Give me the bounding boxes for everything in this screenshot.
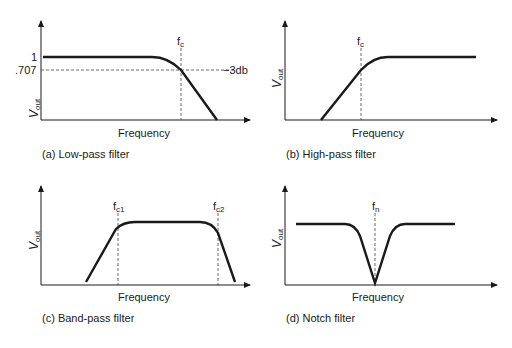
response-curve (321, 57, 476, 120)
panel-band-pass: fc1 fc2 Vout Frequency (c) Band-pass fil… (27, 186, 250, 324)
response-curve (296, 224, 455, 283)
tick-707: .707 (15, 64, 36, 76)
tick-1: 1 (31, 51, 37, 63)
y-axis-label: Vout (270, 68, 285, 88)
caption: (b) High-pass filter (286, 148, 376, 160)
panel-high-pass: fc Vout Frequency (b) High-pass filter (270, 21, 497, 160)
x-axis-label: Frequency (118, 291, 170, 303)
caption: (c) Band-pass filter (42, 312, 135, 324)
response-curve (43, 57, 217, 120)
y-axis-label: Vout (27, 230, 42, 250)
fc-label: fc (357, 35, 364, 49)
response-curve (86, 222, 235, 282)
y-axis-label: Vout (270, 228, 285, 248)
panel-notch: fn Vout Frequency (d) Notch filter (270, 186, 497, 324)
fc2-label: fc2 (213, 200, 225, 214)
x-axis-label: Frequency (352, 291, 404, 303)
caption: (a) Low-pass filter (42, 148, 130, 160)
y-axis-label: Vout (27, 98, 42, 118)
fc1-label: fc1 (113, 200, 125, 214)
caption: (d) Notch filter (286, 312, 355, 324)
fn-label: fn (372, 200, 380, 214)
fc-label: fc (177, 35, 184, 49)
panel-low-pass: 1 .707 fc −3db Vout Frequency (a) Low-pa… (15, 21, 250, 160)
x-axis-label: Frequency (352, 127, 404, 139)
x-axis-label: Frequency (118, 127, 170, 139)
db-annotation: −3db (223, 64, 248, 76)
filter-response-diagram: 1 .707 fc −3db Vout Frequency (a) Low-pa… (0, 0, 512, 348)
